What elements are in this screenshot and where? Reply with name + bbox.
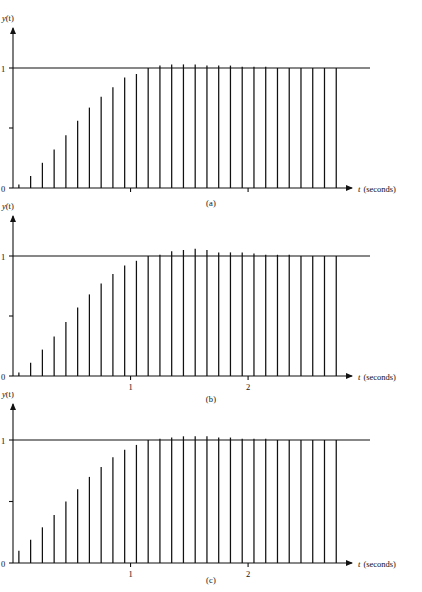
x-axis-label: t(seconds) — [358, 372, 396, 382]
y-tick-label: 1 — [1, 64, 5, 74]
chart-panel-c: 0112y(t)t(seconds) — [0, 392, 422, 578]
y-tick-label: 1 — [1, 252, 5, 262]
chart-panel-a: 0112y(t)t(seconds) — [0, 0, 422, 196]
y-axis-arrow-icon — [10, 27, 16, 34]
x-axis-label: t(seconds) — [358, 184, 396, 194]
x-axis-arrow-icon — [346, 560, 353, 566]
stem-plot-c: 0112y(t)t(seconds) — [0, 392, 422, 578]
stem-series — [19, 436, 336, 563]
y-axis-arrow-icon — [10, 403, 16, 410]
x-tick-label: 1 — [128, 382, 132, 392]
y-axis-arrow-icon — [10, 215, 16, 222]
stem-series — [19, 64, 336, 188]
x-tick-label: 2 — [246, 382, 250, 392]
y-tick-label: 0 — [1, 559, 5, 569]
x-axis-arrow-icon — [346, 185, 353, 191]
y-tick-label: 1 — [1, 436, 5, 446]
y-tick-label: 0 — [1, 372, 5, 382]
stem-plot-b: 0112y(t)t(seconds) — [0, 196, 422, 392]
stem-plot-a: 0112y(t)t(seconds) — [0, 0, 422, 196]
y-axis-label: y(t) — [1, 13, 14, 23]
caption-c: (c) — [0, 575, 422, 585]
x-axis-label: t(seconds) — [358, 559, 396, 569]
y-tick-label: 0 — [1, 184, 5, 194]
stem-series — [19, 249, 336, 376]
y-axis-label: y(t) — [1, 201, 14, 211]
x-axis-arrow-icon — [346, 373, 353, 379]
y-axis-label: y(t) — [1, 392, 14, 399]
chart-panel-b: 0112y(t)t(seconds) — [0, 196, 422, 392]
figure-sampled-step-responses: 0112y(t)t(seconds) (a) 0112y(t)t(seconds… — [0, 0, 422, 592]
